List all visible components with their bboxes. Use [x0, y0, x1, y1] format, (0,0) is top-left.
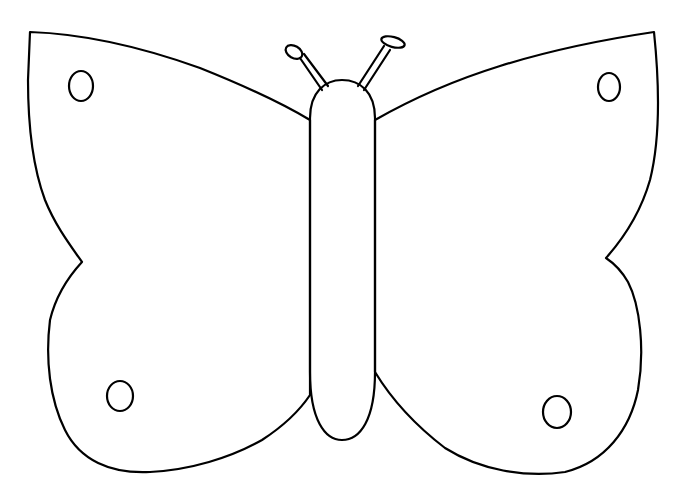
body: [310, 80, 375, 440]
butterfly-svg: [0, 0, 684, 496]
left-antenna: [283, 42, 328, 90]
spot-top-right: [598, 73, 620, 101]
spot-bottom-right: [543, 396, 571, 428]
butterfly-drawing: butterfly outline coloring page: [0, 0, 684, 496]
left-wing: [28, 32, 310, 472]
spot-top-left: [69, 71, 93, 101]
right-antenna: [358, 34, 406, 90]
spot-bottom-left: [107, 381, 133, 411]
